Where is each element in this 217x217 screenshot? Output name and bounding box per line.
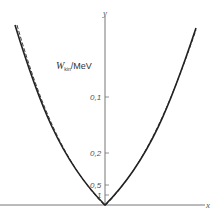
y-ticks xyxy=(105,97,109,195)
tick-label-0-2: 0,2 xyxy=(90,149,102,158)
w-unit: /MeV xyxy=(71,61,92,71)
x-axis-label: x xyxy=(205,200,210,210)
tick-label-0-5: 0,5 xyxy=(90,181,102,190)
dashed-curve xyxy=(17,25,196,206)
tick-label-0-1: 0,1 xyxy=(90,93,101,102)
y-quantity-label: Wkin/MeV xyxy=(56,60,92,72)
y-axis-label: y xyxy=(102,8,107,18)
parabola-chart: x y Wkin/MeV 0,1 0,2 0,5 1 xyxy=(0,0,217,217)
